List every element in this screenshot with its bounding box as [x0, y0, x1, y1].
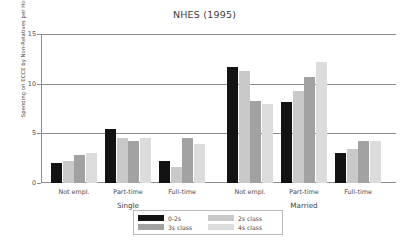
legend-entry-2: 3s class [138, 224, 208, 231]
bar [227, 67, 238, 183]
bar [316, 62, 327, 183]
x-group-label: Single [88, 201, 168, 210]
x-tick-label: Not empl. [220, 188, 280, 196]
x-tick-label: Part-time [274, 188, 334, 196]
bar-group [51, 34, 97, 183]
bar [140, 138, 151, 183]
bar [293, 91, 304, 183]
bars-layer [41, 34, 396, 183]
bar [74, 155, 85, 183]
bar [182, 138, 193, 183]
x-tick-label: Not empl. [44, 188, 104, 196]
bar [335, 153, 346, 183]
x-group-label: Married [264, 201, 344, 210]
plot-area [41, 34, 396, 183]
y-tick-label: 15 [6, 30, 36, 38]
legend-entry-0: 0-2s [138, 215, 208, 222]
legend-entry-3: 4s class [208, 224, 278, 231]
bar [281, 102, 292, 183]
bar [358, 141, 369, 183]
bar [250, 101, 261, 183]
legend-row: 3s class 4s class [138, 223, 278, 232]
bar [239, 71, 250, 183]
bar [262, 104, 273, 183]
legend-entry-1: 2s class [208, 215, 278, 222]
bar [105, 129, 116, 183]
bar [128, 141, 139, 183]
legend-swatch-0-2s [138, 215, 164, 221]
bar-group [227, 34, 273, 183]
bar [347, 149, 358, 183]
bar [159, 161, 170, 183]
bar [304, 77, 315, 183]
bar [63, 161, 74, 183]
x-tick-label: Part-time [98, 188, 158, 196]
bar-group [105, 34, 151, 183]
legend-label-2s-class: 2s class [238, 215, 262, 222]
chart-figure: NHES (1995) Spending on ECCE by Non-Rela… [0, 0, 409, 243]
y-tick-mark [37, 84, 41, 85]
bar [86, 153, 97, 183]
chart-legend: 0-2s 2s class 3s class 4s class [133, 210, 283, 235]
legend-row: 0-2s 2s class [138, 214, 278, 223]
bar [51, 163, 62, 183]
x-tick-label: Full-time [328, 188, 388, 196]
bar [171, 167, 182, 183]
bar [117, 138, 128, 183]
y-tick-label: 10 [6, 80, 36, 88]
y-tick-mark [37, 133, 41, 134]
y-tick-mark [37, 34, 41, 35]
legend-label-0-2s: 0-2s [168, 215, 181, 222]
legend-swatch-3s-class [138, 224, 164, 230]
bar [370, 141, 381, 183]
bar-group [335, 34, 381, 183]
y-tick-label: 0 [6, 179, 36, 187]
bar-group [281, 34, 327, 183]
x-tick-label: Full-time [152, 188, 212, 196]
legend-label-3s-class: 3s class [168, 224, 192, 231]
y-tick-mark [37, 183, 41, 184]
legend-label-4s-class: 4s class [238, 224, 262, 231]
bar-group [159, 34, 205, 183]
y-axis-title: Spending on ECCE by Non-Relatives per Ho… [20, 0, 26, 131]
y-tick-label: 5 [6, 129, 36, 137]
chart-title: NHES (1995) [0, 9, 409, 20]
legend-swatch-2s-class [208, 215, 234, 221]
legend-swatch-4s-class [208, 224, 234, 230]
bar [194, 144, 205, 183]
